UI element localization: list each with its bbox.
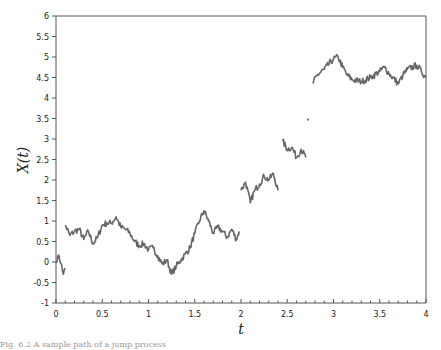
x-tick-label: 3	[331, 310, 336, 319]
x-tick-label: 1.5	[188, 310, 201, 319]
y-tick-label: 5.5	[36, 33, 49, 42]
plot-frame	[56, 16, 426, 303]
series-line-segment-1	[56, 255, 65, 274]
x-tick-label: 2	[238, 310, 243, 319]
y-tick-label: 5	[44, 53, 49, 62]
series-line-segment-6	[313, 55, 426, 85]
series-line-segment-3	[241, 173, 278, 203]
x-tick-label: 0.5	[96, 310, 109, 319]
y-tick-label: 4.5	[36, 74, 49, 83]
x-axis-label: t	[238, 321, 244, 337]
x-ticks: 00.511.522.533.54	[53, 299, 428, 319]
series-line-segment-2	[65, 211, 239, 274]
y-tick-label: 2.5	[36, 156, 49, 165]
y-tick-label: 3	[44, 135, 49, 144]
y-tick-label: 2	[44, 176, 49, 185]
y-tick-label: 1	[44, 217, 49, 226]
y-tick-label: 0.5	[36, 238, 49, 247]
y-tick-label: -0.5	[33, 279, 49, 288]
figure-caption: Fig. 6.2 A sample path of a jump process	[0, 340, 441, 350]
x-tick-label: 1	[146, 310, 151, 319]
y-tick-label: 0	[44, 258, 49, 267]
y-tick-label: -1	[41, 299, 49, 308]
series-line-segment-4	[283, 139, 306, 158]
y-axis-label: X(t)	[15, 147, 31, 175]
x-tick-label: 0	[53, 310, 58, 319]
y-ticks: -1-0.500.511.522.533.544.555.56	[33, 12, 56, 308]
y-tick-label: 3.5	[36, 115, 49, 124]
chart: -1-0.500.511.522.533.544.555.56 00.511.5…	[0, 0, 441, 350]
series-line-segment-5	[308, 119, 309, 121]
x-tick-label: 3.5	[373, 310, 386, 319]
y-tick-label: 4	[44, 94, 49, 103]
x-tick-label: 4	[423, 310, 428, 319]
y-tick-label: 1.5	[36, 197, 49, 206]
series	[56, 55, 426, 275]
y-tick-label: 6	[44, 12, 49, 21]
x-tick-label: 2.5	[281, 310, 294, 319]
